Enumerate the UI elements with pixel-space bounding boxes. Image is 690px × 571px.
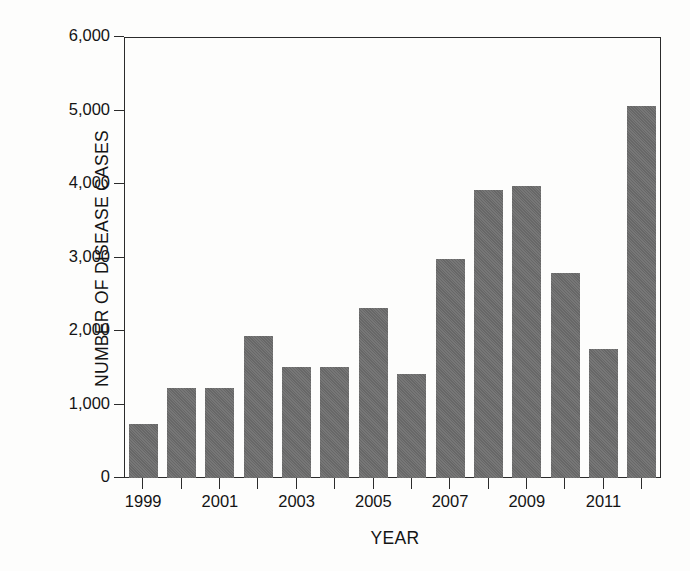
y-axis-tick-label: 1,000 [0,394,110,413]
y-axis-tick-label: 3,000 [0,247,110,266]
bar-2010 [551,273,580,478]
x-axis-tick [488,478,489,489]
y-axis-tick [114,404,124,405]
y-axis-tick [114,110,124,111]
bar-2008 [474,190,503,478]
x-axis-tick-label: 2003 [262,492,332,511]
x-axis-tick [257,478,258,489]
bar-2011 [589,349,618,478]
y-axis-tick-label: 0 [0,467,110,486]
bar-2007 [436,259,465,478]
bar-2009 [512,186,541,478]
bar-2003 [282,367,311,478]
y-axis-tick-label: 5,000 [0,100,110,119]
x-axis-tick [142,478,143,489]
x-axis-tick [373,478,374,489]
x-axis-tick-label: 2009 [492,492,562,511]
x-axis-tick [449,478,450,489]
bar-2004 [320,367,349,478]
bar-2001 [205,388,234,478]
y-axis-tick [114,257,124,258]
y-axis-tick [114,183,124,184]
bar-2006 [397,374,426,478]
plot-area [124,37,661,478]
x-axis-tick [603,478,604,489]
x-axis-tick [641,478,642,489]
x-axis-tick [526,478,527,489]
y-axis-tick [114,477,124,478]
y-axis-tick-label: 6,000 [0,26,110,45]
bar-2012 [627,106,656,478]
x-axis-tick [219,478,220,489]
x-axis-tick [296,478,297,489]
x-axis-tick [181,478,182,489]
x-axis-tick-label: 2007 [415,492,485,511]
bar-2000 [167,388,196,478]
bar-2005 [359,308,388,478]
bar-2002 [244,336,273,478]
x-axis-tick [564,478,565,489]
y-axis-tick [114,36,124,37]
bar-1999 [129,424,158,478]
y-axis-tick [114,330,124,331]
x-axis-tick-label: 2011 [568,492,638,511]
x-axis-tick-label: 2005 [338,492,408,511]
x-axis-tick [334,478,335,489]
bar-chart: NUMBER OF DISEASE CASES 01,0002,0003,000… [0,0,690,571]
y-axis-tick-label: 2,000 [0,320,110,339]
y-axis-tick-label: 4,000 [0,173,110,192]
x-axis-title: YEAR [122,528,668,549]
x-axis-tick-label: 2001 [185,492,255,511]
x-axis-tick [411,478,412,489]
x-axis-tick-label: 1999 [108,492,178,511]
